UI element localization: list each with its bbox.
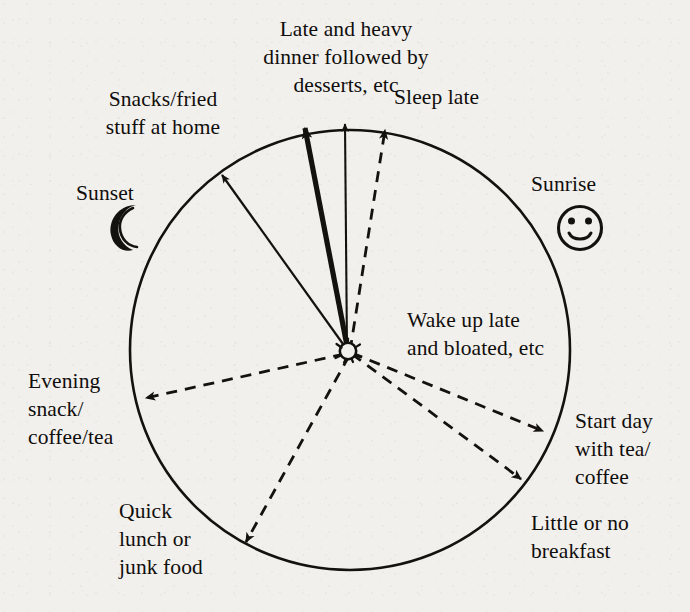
spoke-midnight (345, 124, 347, 351)
label-start-day: Start day with tea/ coffee (575, 408, 690, 492)
label-evening-snack: Evening snack/ coffee/tea (28, 368, 152, 452)
crescent-moon-icon (110, 205, 137, 251)
label-sleep-late: Sleep late (394, 84, 534, 112)
smiley-face-icon (559, 207, 602, 250)
label-snacks-fried: Snacks/fried stuff at home (85, 86, 241, 142)
label-little-breakfast: Little or no breakfast (531, 510, 681, 566)
label-sunrise: Sunrise (531, 171, 651, 199)
spoke-little-breakfast (352, 354, 521, 479)
label-wake-up-late: Wake up late and bloated, etc (407, 307, 587, 363)
spoke-evening-snack (146, 354, 344, 398)
spoke-start-day (352, 353, 543, 431)
diagram-page: Late and heavy dinner followed by desser… (0, 0, 690, 612)
spoke-quick-lunch (246, 356, 349, 542)
label-quick-lunch: Quick lunch or junk food (119, 498, 259, 582)
spoke-sleep-late (350, 130, 385, 351)
spoke-late-heavy-dinner (305, 128, 348, 351)
label-sunset: Sunset (76, 180, 186, 208)
